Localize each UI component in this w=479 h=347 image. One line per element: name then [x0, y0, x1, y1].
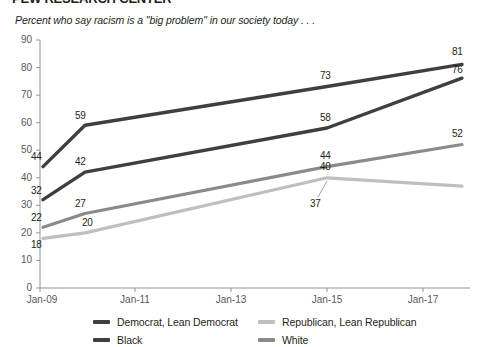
legend-item-white[interactable]: White: [258, 334, 308, 346]
y-tick-label-60: 60: [10, 117, 32, 128]
data-label-white-27: 27: [75, 198, 86, 209]
legend-swatch-democrat-icon: [93, 320, 110, 324]
data-label-republican-40-top: 40: [320, 161, 331, 172]
plot-area: 0 10 20 30 40 50 60 70 80 90 Jan-09 Jan-…: [0, 28, 479, 298]
x-tick-label-jan-11: Jan-11: [120, 294, 150, 305]
data-label-black-81: 81: [452, 46, 463, 57]
y-tick-label-70: 70: [10, 89, 32, 100]
legend-label-black: Black: [117, 334, 142, 346]
chart-subtitle: Percent who say racism is a "big problem…: [15, 14, 315, 26]
legend-swatch-black-icon: [93, 338, 110, 342]
data-label-white-44: 44: [320, 150, 331, 161]
data-label-republican-18: 18: [31, 239, 42, 250]
y-tick-label-50: 50: [10, 144, 32, 155]
legend-item-black[interactable]: Black: [93, 334, 142, 346]
legend-item-republican[interactable]: Republican, Lean Republican: [258, 316, 416, 328]
x-tick-marks: [40, 288, 423, 292]
legend-label-white: White: [282, 334, 308, 346]
data-label-white-22: 22: [31, 212, 42, 223]
legend-swatch-white-icon: [258, 338, 275, 342]
series-line-black: [43, 64, 462, 166]
y-tick-label-40: 40: [10, 172, 32, 183]
x-tick-label-jan-17: Jan-17: [408, 294, 439, 305]
legend-label-democrat: Democrat, Lean Democrat: [117, 316, 238, 328]
series-canvas: [0, 28, 479, 298]
chart-headline: PEW RESEARCH CENTER: [12, 0, 171, 3]
y-tick-label-80: 80: [10, 62, 32, 73]
y-tick-label-20: 20: [10, 227, 32, 238]
data-label-republican-40: 37: [310, 198, 321, 209]
data-label-black-73: 73: [320, 70, 331, 81]
x-tick-label-jan-13: Jan-13: [216, 294, 247, 305]
y-tick-label-0: 0: [10, 282, 32, 293]
data-label-black-44: 44: [31, 151, 42, 162]
data-label-republican-20: 20: [82, 217, 93, 228]
legend-item-democrat[interactable]: Democrat, Lean Democrat: [93, 316, 238, 328]
y-tick-label-30: 30: [10, 199, 32, 210]
data-label-democrat-76: 76: [452, 64, 463, 75]
y-tick-label-90: 90: [10, 34, 32, 45]
leader-line-republican-40: [318, 181, 327, 197]
chart-legend: Democrat, Lean Democrat Republican, Lean…: [0, 313, 479, 347]
x-tick-label-jan-09: Jan-09: [27, 294, 58, 305]
series-line-white: [43, 145, 462, 228]
y-tick-label-10: 10: [10, 254, 32, 265]
x-tick-label-jan-15: Jan-15: [312, 294, 343, 305]
data-label-black-59: 59: [75, 110, 86, 121]
legend-label-republican: Republican, Lean Republican: [282, 316, 416, 328]
chart-figure: PEW RESEARCH CENTER Percent who say raci…: [0, 0, 479, 347]
legend-swatch-republican-icon: [258, 320, 275, 324]
y-tick-marks: [36, 40, 40, 288]
data-label-democrat-32: 32: [31, 185, 42, 196]
data-label-white-52: 52: [452, 128, 463, 139]
data-label-democrat-58: 58: [320, 112, 331, 123]
data-label-democrat-42: 42: [75, 156, 86, 167]
